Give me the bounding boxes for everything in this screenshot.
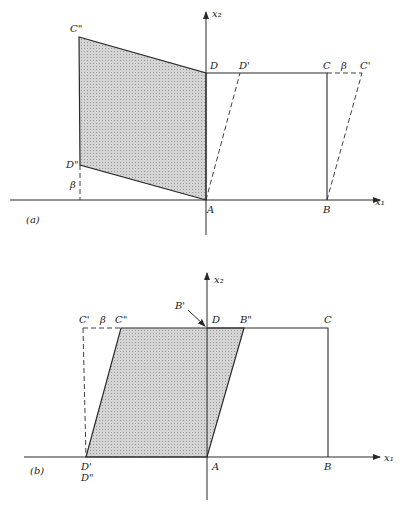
b-prime-pointer	[188, 310, 205, 326]
panel-b: C' β C" B' D B" C D' D" A B x₁ x₂ (b)	[24, 273, 394, 500]
label-x1-a: x₁	[375, 196, 385, 207]
caption-b: (b)	[30, 465, 44, 476]
label-x2-b: x₂	[214, 274, 224, 285]
label-b-a: B	[322, 204, 330, 215]
dashed-c-prime-left	[83, 328, 86, 457]
panel-a: C" D D' C β C' D" β A B x₁ x₂ (a)	[10, 8, 385, 235]
label-b-prime-b: B'	[174, 300, 185, 311]
label-d-dprime-b: D"	[80, 472, 94, 483]
label-d-b: D	[211, 314, 220, 325]
label-c-prime-a: C'	[360, 60, 370, 71]
shaded-region-a	[79, 37, 206, 200]
label-c-a: C	[323, 60, 331, 71]
label-beta-top-a: β	[340, 60, 347, 71]
label-b-b: B	[323, 461, 331, 472]
label-d-dprime-a: D"	[65, 159, 79, 170]
label-c-prime-b: C'	[79, 314, 89, 325]
label-x1-b: x₁	[384, 452, 394, 463]
dashed-ad-prime	[206, 73, 240, 200]
label-d-a: D	[209, 60, 218, 71]
label-beta-left-a: β	[69, 179, 76, 190]
caption-a: (a)	[26, 214, 40, 225]
label-a-a: A	[206, 204, 214, 215]
label-c-dprime-a: C"	[70, 23, 82, 34]
label-x2-a: x₂	[212, 8, 222, 19]
label-c-dprime-b: C"	[115, 314, 127, 325]
dashed-bc-prime	[327, 73, 362, 200]
label-d-prime-b: D'	[80, 461, 92, 472]
label-beta-b: β	[99, 314, 106, 325]
label-a-b: A	[211, 461, 219, 472]
label-b-dprime-b: B"	[239, 314, 252, 325]
shaded-region-b	[86, 328, 244, 457]
square-abcd-a	[206, 73, 327, 200]
label-d-prime-a: D'	[238, 60, 250, 71]
diagram-canvas: C" D D' C β C' D" β A B x₁ x₂ (a) C' β C…	[0, 0, 400, 512]
label-c-b: C	[324, 314, 332, 325]
